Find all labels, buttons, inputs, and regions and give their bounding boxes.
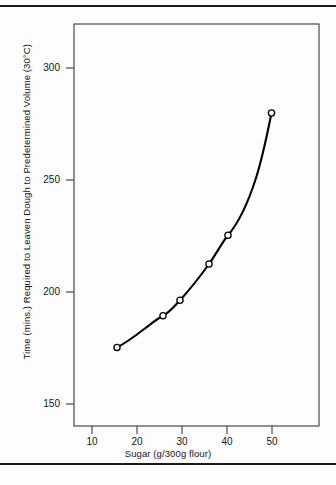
data-point: [177, 297, 183, 303]
x-tick-label-30: 30: [167, 436, 197, 447]
top-horizontal-rule: [0, 5, 336, 7]
x-tick-label-50: 50: [257, 436, 287, 447]
data-line: [117, 113, 272, 347]
chart-figure: 300 250 200 150 10 20 30 40 50 Time (min…: [0, 8, 336, 462]
y-tick-label-150: 150: [26, 398, 60, 409]
y-axis-title: Time (mins.) Required to Leaven Dough to…: [21, 100, 32, 360]
data-point-markers: [114, 110, 275, 351]
x-tick-label-10: 10: [77, 436, 107, 447]
data-point: [114, 344, 120, 350]
x-tick-label-40: 40: [212, 436, 242, 447]
x-tick-label-20: 20: [122, 436, 152, 447]
data-point: [225, 232, 231, 238]
plot-frame: [74, 24, 319, 426]
data-point: [160, 313, 166, 319]
data-point: [206, 261, 212, 267]
line-chart-plot: [0, 8, 336, 462]
data-point: [268, 110, 274, 116]
x-axis-title: Sugar (g/300g flour): [0, 448, 336, 459]
x-axis-ticks: [92, 426, 272, 434]
figure-page: 300 250 200 150 10 20 30 40 50 Time (min…: [0, 0, 336, 485]
bottom-horizontal-rule: [0, 463, 336, 465]
y-axis-ticks: [66, 68, 74, 404]
